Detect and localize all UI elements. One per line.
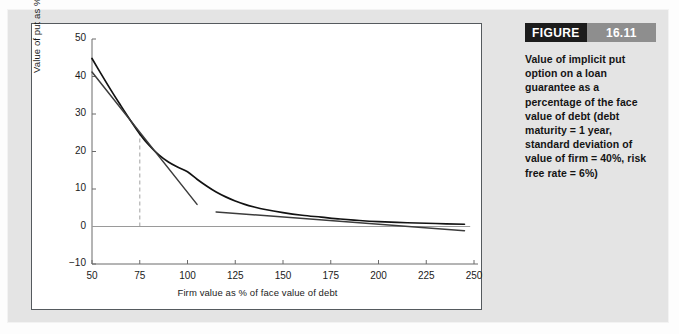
y-tick-label: 50 (52, 32, 86, 43)
x-tick-label: 250 (466, 270, 483, 281)
figure-container: Value of put as % of face value of debt … (0, 0, 679, 334)
x-tick-label: 50 (86, 270, 97, 281)
x-tick-label: 200 (370, 270, 387, 281)
tangent-line-2 (216, 212, 464, 231)
y-tick-label: −10 (52, 257, 86, 268)
figure-badge: FIGURE 16.11 (525, 23, 656, 42)
y-tick-label: 10 (52, 182, 86, 193)
figure-caption-column: FIGURE 16.11 Value of implicit put optio… (525, 23, 658, 180)
x-tick-label: 150 (275, 270, 292, 281)
figure-badge-word: FIGURE (525, 23, 587, 42)
chart-panel: Value of put as % of face value of debt … (31, 23, 482, 310)
x-tick-label: 175 (322, 270, 339, 281)
y-tick-label: 0 (52, 220, 86, 231)
y-tick-label: 30 (52, 107, 86, 118)
x-axis-title-wrapper: Firm value as % of face value of debt (32, 287, 483, 298)
y-tick-label: 20 (52, 145, 86, 156)
y-axis-title-wrapper: Value of put as % of face value of debt (29, 0, 43, 70)
tangent-line-1 (92, 72, 197, 204)
x-tick-label: 100 (179, 270, 196, 281)
x-axis-title: Firm value as % of face value of debt (178, 287, 338, 298)
x-tick-label: 125 (227, 270, 244, 281)
x-tick-label: 225 (418, 270, 435, 281)
figure-badge-number: 16.11 (587, 23, 656, 42)
x-tick-label: 75 (134, 270, 145, 281)
y-tick-label: 40 (52, 70, 86, 81)
figure-caption-text: Value of implicit put option on a loan g… (525, 52, 653, 180)
chart-plot (32, 24, 481, 309)
y-axis-title: Value of put as % of face value of debt (31, 0, 42, 73)
